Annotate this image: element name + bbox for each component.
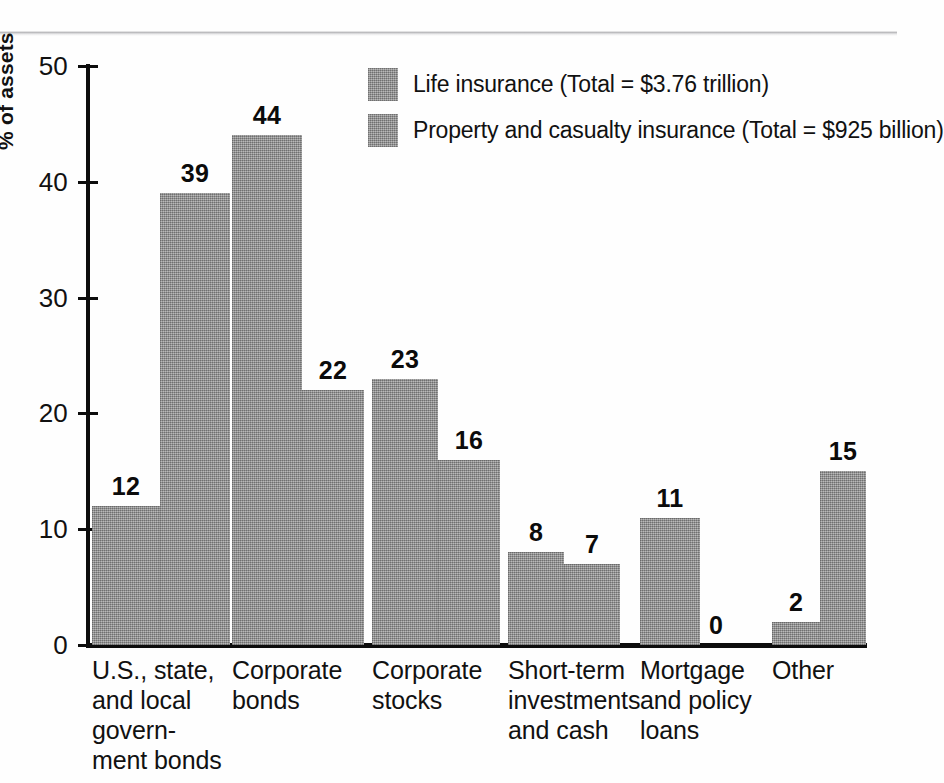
- legend-item-label: Life insurance (Total = $3.76 trillion): [413, 70, 769, 98]
- scan-line-top-shadow: [0, 34, 897, 36]
- x-axis-category-label: Corporate bonds: [232, 655, 367, 715]
- x-axis-category-label: Short-term investments and cash: [508, 655, 648, 745]
- bar-value-label: 44: [237, 103, 297, 128]
- bar[interactable]: [372, 379, 438, 645]
- bar-value-label: 39: [165, 161, 225, 186]
- bar[interactable]: [302, 390, 364, 645]
- bar-value-label: 23: [375, 347, 435, 372]
- bar[interactable]: [508, 552, 564, 645]
- x-axis-category-label: Mortgage and policy loans: [640, 655, 770, 745]
- y-axis-label: % of assets: [0, 0, 18, 150]
- y-axis-tick-label: 30: [22, 285, 68, 311]
- plot-area: 12394422231687110215: [88, 66, 865, 645]
- legend-swatch-icon: [368, 68, 398, 101]
- bar[interactable]: [820, 471, 866, 645]
- bar-value-label: 11: [640, 486, 700, 511]
- bar[interactable]: [564, 564, 620, 645]
- bar[interactable]: [92, 506, 160, 645]
- bar[interactable]: [438, 460, 500, 645]
- x-axis-category-label: U.S., state, and local govern- ment bond…: [92, 655, 252, 775]
- bar-value-label: 22: [303, 358, 363, 383]
- x-axis-category-label: Corporate stocks: [372, 655, 507, 715]
- bar[interactable]: [232, 135, 302, 645]
- bar[interactable]: [772, 622, 820, 645]
- y-axis-tick-label: 20: [22, 400, 68, 426]
- bar-value-label: 0: [686, 613, 746, 638]
- x-axis-category-label: Other: [772, 655, 882, 685]
- y-axis-tick-label: 40: [22, 169, 68, 195]
- y-axis-tick-label: 0: [18, 632, 68, 658]
- bar-value-label: 2: [766, 590, 826, 615]
- y-axis-tick-label: 50: [22, 53, 68, 79]
- legend-item-label: Property and casualty insurance (Total =…: [413, 116, 944, 144]
- bar-value-label: 7: [562, 532, 622, 557]
- y-axis-tick-label: 10: [22, 516, 68, 542]
- legend-swatch-icon: [368, 114, 398, 147]
- bar-value-label: 15: [813, 439, 873, 464]
- bar[interactable]: [160, 193, 230, 645]
- bar-value-label: 16: [439, 428, 499, 453]
- bar-value-label: 12: [96, 474, 156, 499]
- bar-value-label: 8: [506, 520, 566, 545]
